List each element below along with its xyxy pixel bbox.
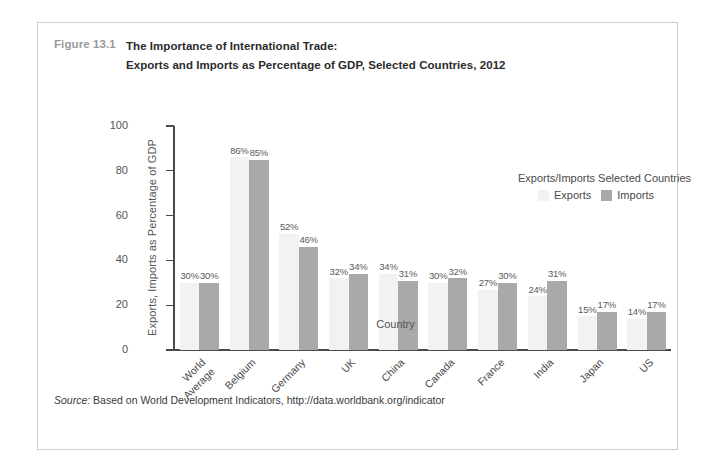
bar-imports (349, 274, 369, 350)
bar-exports (329, 278, 349, 350)
y-tick-label: 60 (88, 209, 128, 221)
legend-item-imports: Imports (601, 189, 654, 201)
source-label: Source: (54, 394, 90, 406)
chart-plot-area: 020406080100 30%30%86%85%52%46%32%34%34%… (136, 104, 676, 354)
figure-header: Figure 13.1 The Importance of Internatio… (54, 37, 506, 74)
y-tick-label: 0 (88, 343, 128, 355)
bar-imports (498, 283, 518, 350)
bar-value-label: 31% (543, 268, 571, 279)
y-tick-label: 80 (88, 164, 128, 176)
y-tick-mark (166, 170, 174, 171)
y-tick-label: 40 (88, 253, 128, 265)
y-tick-mark (166, 305, 174, 306)
legend-swatch-imports (601, 190, 612, 201)
y-tick-mark (166, 215, 174, 216)
source-text: Based on World Development Indicators, h… (93, 394, 445, 406)
source-note: Source: Based on World Development Indic… (54, 394, 445, 406)
bar-series-container: 30%30%86%85%52%46%32%34%34%31%30%32%27%3… (175, 126, 672, 350)
bar-exports (279, 234, 299, 350)
figure-title-line-2: Exports and Imports as Percentage of GDP… (126, 56, 506, 75)
bar-value-label: 17% (643, 299, 671, 310)
bar-imports (299, 247, 319, 350)
legend-label-exports: Exports (554, 189, 591, 201)
y-tick-mark (166, 349, 174, 350)
bar-value-label: 34% (345, 261, 373, 272)
legend-label-imports: Imports (617, 189, 654, 201)
figure-frame: Figure 13.1 The Importance of Internatio… (37, 22, 678, 450)
y-tick-label: 20 (88, 298, 128, 310)
bar-imports (398, 281, 418, 350)
bar-imports (547, 281, 567, 350)
bar-imports (448, 278, 468, 350)
y-tick-mark (166, 260, 174, 261)
x-axis-title: Country (38, 318, 715, 330)
legend-title: Exports/Imports Selected Countries (518, 172, 691, 184)
bar-value-label: 85% (245, 147, 273, 158)
figure-title: The Importance of International Trade: E… (126, 37, 506, 74)
y-axis-title: Exports, Imports as Percentage of GDP (146, 139, 158, 336)
y-tick-mark (166, 125, 174, 126)
bar-value-label: 30% (494, 270, 522, 281)
chart-legend: Exports/Imports Selected Countries Expor… (518, 172, 691, 201)
legend-item-exports: Exports (538, 189, 591, 201)
bar-value-label: 31% (394, 268, 422, 279)
bar-exports (428, 283, 448, 350)
figure-title-line-1: The Importance of International Trade: (126, 37, 506, 56)
y-tick-label: 100 (88, 119, 128, 131)
bar-imports (199, 283, 219, 350)
x-category-label: India (462, 356, 556, 450)
bar-value-label: 52% (275, 221, 303, 232)
legend-swatch-exports (538, 190, 549, 201)
bar-value-label: 30% (195, 270, 223, 281)
legend-items: Exports Imports (518, 189, 691, 201)
bar-exports (379, 274, 399, 350)
bar-exports (180, 283, 200, 350)
x-category-label: Japan (512, 356, 606, 450)
bar-value-label: 32% (444, 266, 472, 277)
x-category-label: US (562, 356, 656, 450)
figure-number: Figure 13.1 (54, 37, 126, 50)
bar-value-label: 17% (593, 299, 621, 310)
bar-value-label: 46% (295, 234, 323, 245)
